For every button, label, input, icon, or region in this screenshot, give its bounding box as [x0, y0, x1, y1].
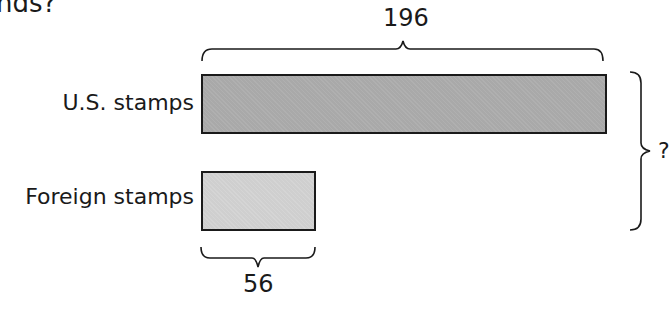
right-brace-icon: [630, 72, 650, 230]
us-stamps-bar: [201, 74, 607, 134]
foreign-stamps-bar: [201, 171, 316, 231]
top-brace-icon: [202, 41, 603, 61]
us-stamps-label: U.S. stamps: [63, 92, 194, 114]
total-unknown-label: ?: [658, 140, 670, 162]
bottom-brace-icon: [201, 247, 315, 267]
foreign-stamps-label: Foreign stamps: [25, 186, 194, 208]
braces-layer: [0, 0, 671, 311]
foreign-stamps-value-label: 56: [243, 272, 274, 296]
